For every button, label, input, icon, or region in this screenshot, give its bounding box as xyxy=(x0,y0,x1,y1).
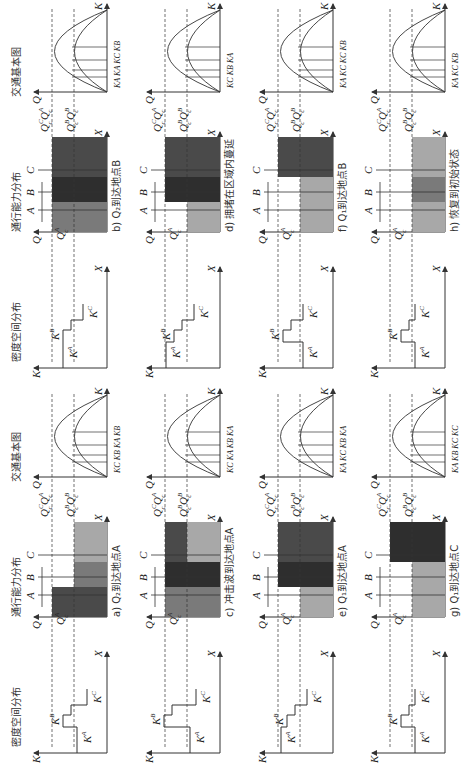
axis-x: X xyxy=(318,649,330,658)
capacity-label: QAc xyxy=(279,612,296,625)
segment-c: C xyxy=(24,551,36,559)
fundamental-diagram: QKQAcQBcKC KB KA KB xyxy=(30,387,122,505)
density-label-b: KB xyxy=(149,713,162,726)
capacity-label: QAc xyxy=(375,492,392,505)
fundamental-diagram: QKQAcQBcKC KB KA xyxy=(143,2,235,120)
capacity-bar-low xyxy=(412,177,445,202)
segment-a: A xyxy=(362,592,374,600)
capacity-bar-low xyxy=(300,522,333,562)
capacity-label: QBc xyxy=(289,492,306,505)
density-label-b: KB xyxy=(386,328,399,341)
axis-x: X xyxy=(318,128,330,137)
fundamental-diagram: QKQAcQBcKA KC KC KB xyxy=(256,2,348,120)
axis-q: Q xyxy=(256,96,268,104)
capacity-bar-top xyxy=(165,562,187,587)
density-label-c: KC xyxy=(310,691,323,704)
axis-x: X xyxy=(92,649,104,658)
axis-q: Q xyxy=(256,621,268,629)
density-plot: KXKAKBKC xyxy=(143,264,220,379)
caption-d: d) 拥堵在区域内蔓延 xyxy=(223,139,235,232)
axis-k: K xyxy=(430,2,442,11)
axis-q: Q xyxy=(143,621,155,629)
density-label-a: KA xyxy=(418,731,431,744)
density-plot: KXKAKBKC xyxy=(30,649,107,764)
fd-curve-outer xyxy=(393,10,446,92)
fd-curve-outer xyxy=(281,395,334,477)
axis-x: X xyxy=(92,264,104,273)
capacity-bar-low xyxy=(187,137,220,177)
density-label-c: KC xyxy=(418,691,431,704)
density-label-a: KA xyxy=(418,346,431,359)
capacity-label: QCc xyxy=(37,119,54,132)
segment-b: B xyxy=(250,189,262,196)
capacity-label: QCc xyxy=(37,504,54,517)
axis-k: K xyxy=(92,2,104,11)
header-capacity: 通行能力分布 xyxy=(10,557,22,617)
segment-a: A xyxy=(137,207,149,215)
segment-c: C xyxy=(362,551,374,559)
capacity-label: QBc xyxy=(176,107,193,120)
capacity-bar-low xyxy=(187,562,220,587)
capacity-plot: QXABCQAcQCcQBc xyxy=(24,119,107,244)
panel-a: 密度空间分布通行能力分布交通基本图KXKAKBKCQXABCQAcQCcQBcQ… xyxy=(10,387,122,764)
capacity-bar-top xyxy=(278,522,300,562)
density-plot: KXKAKBKC xyxy=(143,649,220,764)
capacity-label: QBc xyxy=(401,107,418,120)
capacity-bar-low xyxy=(187,177,220,202)
capacity-label: QBc xyxy=(289,119,306,132)
capacity-label: QCc xyxy=(263,504,280,517)
fd-curve-outer xyxy=(55,10,108,92)
capacity-label: QBc xyxy=(176,119,193,132)
axis-x: X xyxy=(318,264,330,273)
segment-a: A xyxy=(137,592,149,600)
capacity-bar-low xyxy=(74,137,107,177)
capacity-bar-low xyxy=(187,522,220,562)
panel-h: KXKAKBKCQXABCQAcQCcQBcQKQAcQBcKA KC KBh)… xyxy=(362,2,460,379)
capacity-label: QAc xyxy=(37,107,54,120)
caption-a: a) Q₂到达地点A xyxy=(110,545,122,617)
segment-c: C xyxy=(250,166,262,174)
axis-k: K xyxy=(205,387,217,396)
capacity-label: QBc xyxy=(63,504,80,517)
segment-b: B xyxy=(362,189,374,196)
segment-a: A xyxy=(24,592,36,600)
header-fundamental: 交通基本图 xyxy=(10,47,22,97)
capacity-plot: QXABCQAcQCcQBc xyxy=(362,504,445,629)
segment-c: C xyxy=(137,166,149,174)
capacity-label: QAc xyxy=(391,612,408,625)
caption-c: c) 冲击波到达地点A xyxy=(223,527,235,617)
density-label-c: KC xyxy=(306,306,319,319)
capacity-bar-top xyxy=(165,587,187,617)
panel-c: KXKAKBKCQXABCQAcQCcQBcQKQAcQBcKC KA KB K… xyxy=(137,387,235,764)
fd-curve-outer xyxy=(281,10,334,92)
density-label-c: KC xyxy=(418,306,431,319)
capacity-bar-low xyxy=(74,202,107,232)
capacity-label: QBc xyxy=(289,107,306,120)
capacity-label: QCc xyxy=(375,504,392,517)
capacity-bar-top xyxy=(165,177,187,202)
segment-b: B xyxy=(250,574,262,581)
capacity-bar-low xyxy=(187,202,220,232)
density-plot: KXKAKBKC xyxy=(368,264,445,379)
density-label-a: KA xyxy=(306,346,319,359)
capacity-label: QCc xyxy=(150,119,167,132)
capacity-label: QAc xyxy=(279,227,296,240)
capacity-label: QAc xyxy=(150,107,167,120)
capacity-bar-low xyxy=(300,177,333,202)
density-label-c: KC xyxy=(199,691,212,704)
capacity-label: QBc xyxy=(401,119,418,132)
fd-density-labels: KA KA KC KB xyxy=(113,41,122,89)
axis-x: X xyxy=(92,128,104,137)
capacity-bar-low xyxy=(412,587,445,617)
traffic-figure: 密度空间分布通行能力分布交通基本图KXKAKBKCQXABCQAcQCcQBcQ… xyxy=(0,0,467,767)
header-density: 密度空间分布 xyxy=(10,302,22,362)
fd-curve-outer xyxy=(168,10,221,92)
fd-curve-outer xyxy=(393,395,446,477)
density-plot: KXKAKBKC xyxy=(368,649,445,764)
axis-k: K xyxy=(430,387,442,396)
header-fundamental: 交通基本图 xyxy=(10,432,22,482)
panel-f: KXKAKBKCQXABCQAcQCcQBcQKQAcQBcKA KC KC K… xyxy=(250,2,348,379)
axis-q: Q xyxy=(143,236,155,244)
density-label-a: KA xyxy=(284,731,297,744)
axis-x: X xyxy=(430,264,442,273)
